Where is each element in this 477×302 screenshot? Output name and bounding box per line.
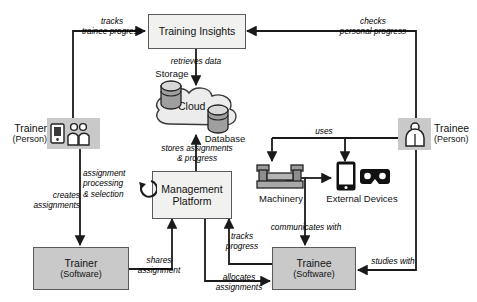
label-checks-line2: personal progress bbox=[323, 26, 423, 36]
storage-label: Storage bbox=[146, 68, 198, 79]
label-creates-line1: creates bbox=[20, 190, 80, 200]
label-retrieves-data: retrieves data bbox=[159, 56, 233, 66]
label-retrieves-data-text: retrieves data bbox=[159, 56, 233, 66]
label-checks-personal-progress: checks personal progress bbox=[323, 16, 423, 37]
management-platform-label-line1: Management bbox=[161, 183, 222, 195]
tablet-icon bbox=[336, 161, 356, 195]
trainee-person-caption: Trainee (Person) bbox=[434, 122, 477, 144]
external-devices-label: External Devices bbox=[318, 193, 406, 204]
node-trainee-person[interactable] bbox=[398, 118, 431, 150]
label-assignment-line1: assignment bbox=[83, 168, 141, 178]
label-studies-text: studies with bbox=[364, 256, 422, 266]
label-tracks-line1: tracks bbox=[68, 16, 156, 26]
node-management-platform[interactable]: Management Platform bbox=[152, 171, 232, 219]
label-allocates-line2: assignments bbox=[206, 282, 272, 292]
trainer-software-sub: (Software) bbox=[60, 269, 102, 279]
label-tracks-progress-line1: tracks bbox=[215, 231, 269, 241]
training-insights-label: Training Insights bbox=[159, 25, 236, 37]
label-studies-with: studies with bbox=[364, 256, 422, 266]
label-tracks-trainee-progress: tracks trainee progress bbox=[68, 16, 156, 37]
trainer-software-title: Trainer bbox=[65, 257, 98, 269]
label-assignment-processing-selection: assignment processing & selection bbox=[83, 168, 141, 199]
trainer-person-sub: (Person) bbox=[5, 134, 47, 144]
label-allocates-line1: allocates bbox=[206, 272, 272, 282]
trainee-person-sub: (Person) bbox=[434, 134, 477, 144]
label-stores-line2: & progress bbox=[145, 153, 249, 163]
single-person-icon bbox=[403, 121, 427, 147]
label-communicates-text: communicates with bbox=[260, 222, 352, 232]
storage-icon bbox=[160, 80, 182, 114]
edge-tracks-trainee-progress bbox=[73, 31, 145, 118]
label-checks-line1: checks bbox=[323, 16, 423, 26]
cloud-label: Cloud bbox=[178, 100, 205, 112]
diagram-canvas: Training Insights Cloud Storage Database… bbox=[0, 0, 477, 302]
node-training-insights[interactable]: Training Insights bbox=[148, 14, 246, 49]
label-tracks-line2: trainee progress bbox=[68, 26, 156, 36]
trainer-person-title: Trainer bbox=[5, 122, 47, 134]
label-uses-text: uses bbox=[308, 126, 340, 136]
label-shares-line1: shares bbox=[128, 255, 190, 265]
edge-checks-personal-progress bbox=[247, 31, 416, 118]
label-shares-assignment: shares assignment bbox=[128, 255, 190, 276]
management-platform-label-line2: Platform bbox=[172, 195, 211, 207]
trainer-person-caption: Trainer (Person) bbox=[5, 122, 47, 144]
machinery-icon bbox=[256, 161, 304, 195]
label-shares-line2: assignment bbox=[128, 265, 190, 275]
node-trainer-software[interactable]: Trainer (Software) bbox=[33, 247, 129, 290]
label-communicates-with: communicates with bbox=[260, 222, 352, 232]
label-allocates-assignments: allocates assignments bbox=[206, 272, 272, 293]
label-creates-line2: assignments bbox=[20, 200, 80, 210]
label-assignment-line2: processing bbox=[83, 178, 141, 188]
node-trainer-person[interactable] bbox=[47, 118, 100, 149]
label-creates-assignments: creates assignments bbox=[20, 190, 80, 211]
label-assignment-line3: & selection bbox=[83, 189, 141, 199]
machinery-label: Machinery bbox=[250, 193, 312, 204]
label-stores-line1: stores assignments bbox=[145, 143, 249, 153]
label-tracks-progress: tracks progress bbox=[215, 231, 269, 252]
trainer-people-icon bbox=[50, 121, 97, 147]
trainee-software-title: Trainee bbox=[296, 257, 331, 269]
label-stores-assignments: stores assignments & progress bbox=[145, 143, 249, 164]
trainee-software-sub: (Software) bbox=[293, 269, 335, 279]
vr-goggles-icon bbox=[360, 168, 390, 190]
node-trainee-software[interactable]: Trainee (Software) bbox=[272, 247, 356, 290]
label-tracks-progress-line2: progress bbox=[215, 241, 269, 251]
label-uses: uses bbox=[308, 126, 340, 136]
trainee-person-title: Trainee bbox=[434, 122, 477, 134]
